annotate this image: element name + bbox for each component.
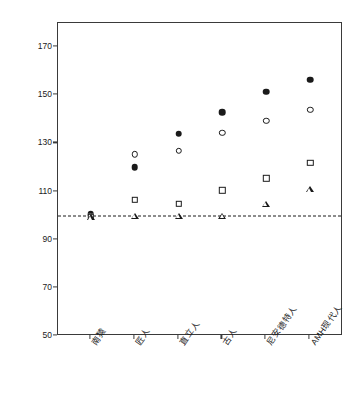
data-point-open-circle [175,147,181,153]
data-point-filled-circle [263,88,270,95]
data-point-open-circle [307,106,313,112]
data-point-open-triangle [131,213,139,219]
data-point-open-triangle [306,186,314,192]
reference-line-100 [58,215,341,216]
data-point-open-triangle [87,214,95,220]
data-point-open-circle [132,151,138,157]
data-point-open-triangle [175,213,183,219]
x-axis-tick-labels: 南猿匠人直立人古人尼安德特人AMH现代人 [57,340,342,396]
y-tick-label: 50 [26,330,52,340]
data-point-filled-circle [219,109,226,116]
data-point-filled-circle [307,76,314,83]
y-tick-label: 90 [26,234,52,244]
y-tick-label: 70 [26,282,52,292]
data-point-filled-circle [175,130,182,137]
y-tick-label: 110 [26,186,52,196]
data-point-open-circle [219,129,225,135]
data-point-open-triangle [218,213,226,219]
data-point-open-square [307,159,313,165]
data-point-open-square [219,187,225,193]
chart-figure: 总时间分配 (%) 507090110130150170 南猿匠人直立人古人尼安… [0,0,362,398]
y-axis-tick-labels: 507090110130150170 [26,22,52,335]
y-tick-label: 130 [26,137,52,147]
data-point-filled-circle [131,164,138,171]
data-point-open-square [175,200,181,206]
plot-area [58,23,341,334]
y-tick-label: 170 [26,41,52,51]
plot-frame [57,22,342,335]
data-point-open-circle [263,117,269,123]
data-point-open-square [132,197,138,203]
data-point-open-triangle [262,201,270,207]
y-tick-label: 150 [26,89,52,99]
data-point-open-square [263,175,269,181]
